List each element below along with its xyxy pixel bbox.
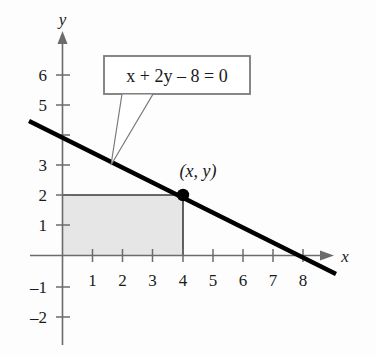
x-axis-label: x [340, 247, 349, 266]
y-axis-label: y [57, 10, 67, 29]
x-axis-arrow [320, 251, 334, 261]
x-tick-label-2: 2 [118, 271, 127, 290]
x-tick-label-8: 8 [299, 271, 308, 290]
x-tick-labels: 1 2 3 4 5 6 7 8 [88, 271, 307, 290]
y-tick-label-3: 3 [39, 156, 48, 175]
y-tick-label-1: 1 [39, 216, 48, 235]
x-tick-label-4: 4 [179, 271, 188, 290]
point-coordinate-label: (x, y) [180, 161, 217, 182]
coordinate-plane-svg: 1 2 3 4 5 6 7 8 6 5 3 2 1 –1 –2 x y (x, … [0, 0, 376, 357]
x-tick-label-1: 1 [88, 271, 97, 290]
point-marker [177, 189, 189, 201]
y-tick-label-2: 2 [39, 186, 48, 205]
x-tick-label-6: 6 [239, 271, 248, 290]
y-tick-label-neg1: –1 [29, 278, 47, 297]
callout-leader-wedge [111, 94, 153, 165]
line-graph-figure: 1 2 3 4 5 6 7 8 6 5 3 2 1 –1 –2 x y (x, … [0, 0, 376, 357]
y-tick-label-5: 5 [39, 96, 48, 115]
y-axis-arrow [58, 31, 68, 44]
shaded-rectangle [62, 195, 183, 255]
x-tick-label-5: 5 [209, 271, 218, 290]
y-tick-labels: 6 5 3 2 1 –1 –2 [29, 66, 47, 327]
x-tick-label-3: 3 [148, 271, 157, 290]
x-tick-label-7: 7 [269, 271, 278, 290]
equation-label: x + 2y – 8 = 0 [126, 66, 227, 86]
y-tick-label-neg2: –2 [29, 308, 47, 327]
y-tick-label-6: 6 [39, 66, 48, 85]
